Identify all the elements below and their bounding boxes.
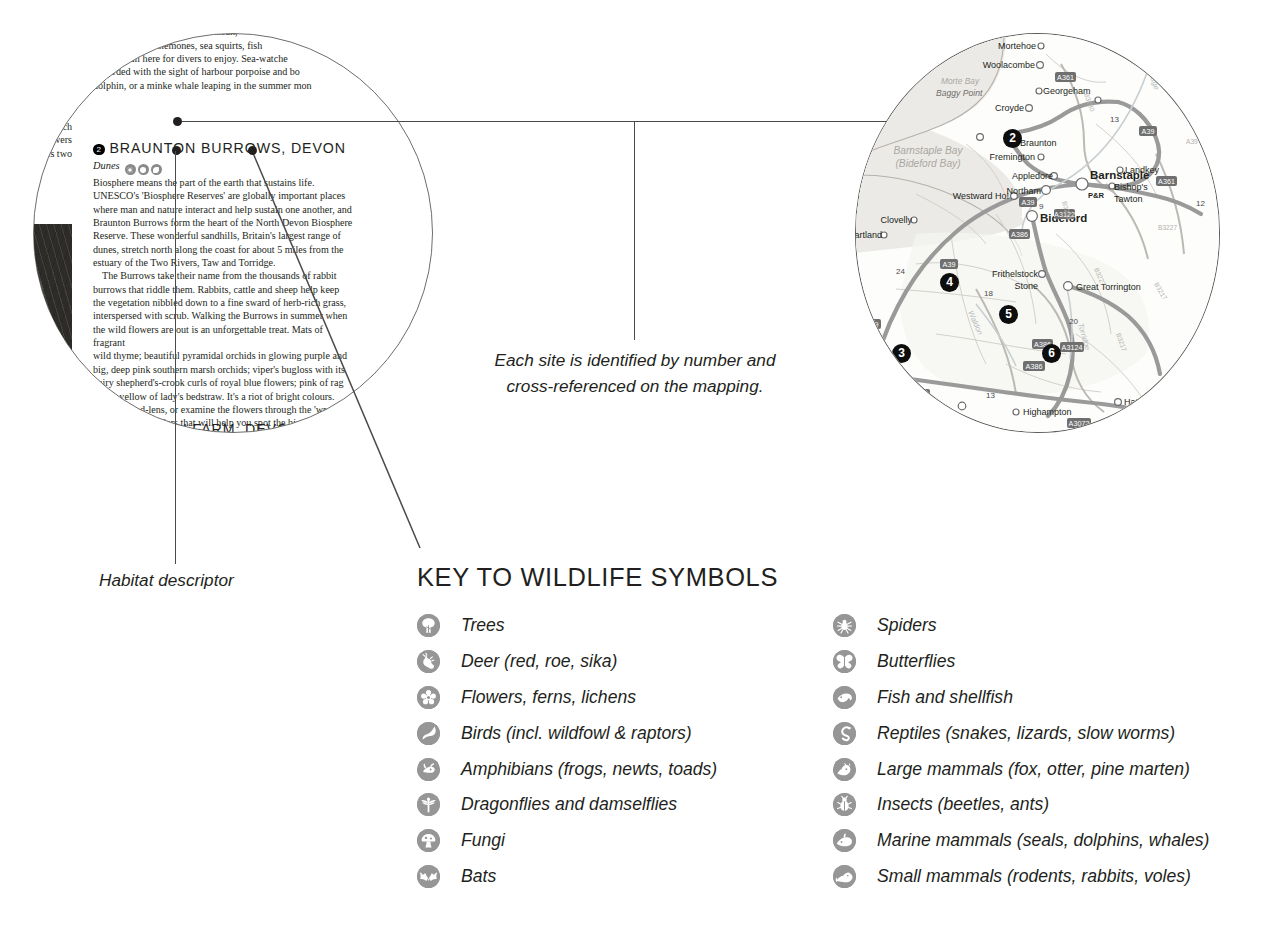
book-text-line: the vegetation nibbled down to a fine sw… (93, 296, 355, 309)
key-row: Amphibians (frogs, newts, toads) (417, 751, 717, 787)
reptiles-icon (833, 722, 856, 745)
leader-dot-page-site (173, 117, 182, 126)
book-text-line: d Manx shearwaters (33, 93, 72, 106)
svg-text:Appledore: Appledore (1012, 171, 1053, 181)
flowers-icon (417, 686, 440, 709)
key-label: Trees (461, 615, 505, 636)
svg-text:A39: A39 (943, 260, 956, 269)
svg-text:Barnstaple: Barnstaple (1090, 169, 1149, 181)
book-text-line: UNESCO's 'Biosphere Reserves' are global… (93, 189, 355, 202)
book-text-line: burrows that riddle them. Rabbits, cattl… (93, 283, 355, 296)
habitat-descriptor-braunton: Dunes (93, 160, 164, 175)
book-text-line: robin, yellow of lady's bedstraw. It's a… (93, 390, 355, 403)
key-label: Deer (red, roe, sika) (461, 651, 617, 672)
key-column-left: TreesDeer (red, roe, sika)Flowers, ferns… (417, 608, 717, 894)
key-row: Bats (417, 859, 717, 895)
center-annotation-text: Each site is identified by number and cr… (470, 348, 800, 399)
site-heading-braunton-burrows: 2BRAUNTON BURROWS, DEVON (93, 140, 346, 156)
book-left-column: d). Nowh array ofarley-Davidsonorbill an… (33, 40, 72, 160)
book-page-content: d). Nowh array ofarley-Davidsonorbill an… (33, 33, 433, 433)
svg-text:on: on (864, 371, 874, 381)
book-text-line: wild thyme; beautiful pyramidal orchids … (93, 349, 355, 362)
key-label: Large mammals (fox, otter, pine marten) (877, 759, 1190, 780)
marine-mammals-icon (833, 829, 856, 852)
book-text-line: Reserve. These wonderful sandhills, Brit… (93, 229, 355, 242)
svg-text:Highampton: Highampton (1023, 407, 1072, 417)
svg-text:Barnstaple Bay: Barnstaple Bay (893, 145, 963, 156)
flowers-icon (125, 164, 136, 175)
svg-text:A361: A361 (1057, 73, 1074, 82)
book-text-line: where man and nature interact and help s… (93, 203, 355, 216)
map-site-marker-3[interactable]: 3 (892, 344, 911, 363)
map-site-marker-2[interactable]: 2 (1003, 129, 1022, 148)
book-page-circle-crop: d). Nowh array ofarley-Davidsonorbill an… (33, 33, 433, 433)
svg-text:18: 18 (1008, 432, 1017, 433)
svg-text:Woolacombe: Woolacombe (983, 60, 1035, 70)
deer-icon (417, 650, 440, 673)
key-row: Deer (red, roe, sika) (417, 644, 717, 680)
key-label: Bats (461, 866, 496, 887)
key-row: Fungi (417, 823, 717, 859)
book-text-line: The Burrows take their name from the tho… (93, 269, 355, 282)
svg-text:Great Torrington: Great Torrington (1076, 282, 1141, 292)
key-label: Small mammals (rodents, rabbits, voles) (877, 866, 1191, 887)
key-label: Fungi (461, 830, 505, 851)
svg-text:13: 13 (1110, 115, 1119, 124)
key-row: Insects (beetles, ants) (833, 787, 1209, 823)
svg-text:13: 13 (986, 391, 995, 400)
small-mammals-icon (833, 865, 856, 888)
key-row: Dragonflies and damselflies (417, 787, 717, 823)
svg-text:18: 18 (984, 289, 993, 298)
map-site-marker-5[interactable]: 5 (999, 305, 1018, 324)
svg-text:Braunton: Braunton (1020, 138, 1057, 148)
svg-text:A3124: A3124 (1062, 343, 1083, 352)
key-title: KEY TO WILDLIFE SYMBOLS (417, 563, 778, 592)
key-label: Marine mammals (seals, dolphins, whales) (877, 830, 1209, 851)
svg-text:12: 12 (1196, 199, 1205, 208)
site-number-badge: 3 (93, 425, 105, 434)
svg-text:Tawton: Tawton (1114, 194, 1143, 204)
butterflies-icon (138, 164, 149, 175)
spiders-icon (833, 614, 856, 637)
book-text-line: big, deep pink southern marsh orchids; v… (93, 363, 355, 376)
book-text-line: dolphin, or a minke whale leaping in the… (93, 79, 353, 92)
site-title: DUNSDON FARM, DEVON (110, 421, 301, 433)
svg-text:Westward Ho!: Westward Ho! (953, 191, 1009, 201)
key-label: Fish and shellfish (877, 687, 1013, 708)
book-text-line: Biosphere means the part of the earth th… (93, 176, 355, 189)
dragonflies-icon (417, 793, 440, 816)
key-column-right: SpidersButterfliesFish and shellfishRept… (833, 608, 1209, 894)
site-number-badge: 2 (93, 144, 105, 156)
map-site-marker-6[interactable]: 6 (1042, 344, 1061, 363)
key-row: Spiders (833, 608, 1209, 644)
leader-dot-habitat-icons (248, 146, 257, 155)
key-label: Insects (beetles, ants) (877, 794, 1049, 815)
key-row: Butterflies (833, 644, 1209, 680)
book-text-line: estuary of the Two Rivers, Taw and Torri… (93, 256, 355, 269)
key-row: Reptiles (snakes, lizards, slow worms) (833, 715, 1209, 751)
butterflies-icon (833, 650, 856, 673)
book-text-line: Braunton Burrows form the heart of the N… (93, 216, 355, 229)
fish-icon (833, 686, 856, 709)
svg-text:Morte Bay: Morte Bay (941, 76, 980, 86)
svg-text:24: 24 (896, 267, 905, 276)
amphibians-icon (417, 758, 440, 781)
svg-text:A39: A39 (1142, 127, 1155, 136)
fish-icon (151, 164, 162, 175)
book-text-line: the world), which (33, 120, 72, 133)
book-text-line: r-petalled yellow flowers (33, 133, 72, 146)
large-mammals-icon (833, 758, 856, 781)
map-site-marker-4[interactable]: 4 (940, 273, 959, 292)
svg-text:Baggy Point: Baggy Point (936, 88, 983, 98)
birds-icon (417, 722, 440, 745)
svg-text:B3217: B3217 (1106, 418, 1125, 425)
trees-icon (417, 614, 440, 637)
habitat-descriptor-annotation: Habitat descriptor (99, 570, 234, 591)
key-row: Fish and shellfish (833, 680, 1209, 716)
site-heading-dunsdon-farm: 3DUNSDON FARM, DEVON (93, 421, 300, 433)
fungi-icon (417, 829, 440, 852)
book-text-line: Bring a hand-lens, or examine the flower… (93, 403, 355, 416)
habitat-label: Dunes (93, 160, 120, 171)
key-label: Flowers, ferns, lichens (461, 687, 636, 708)
book-text-line: d). Now (33, 40, 72, 53)
